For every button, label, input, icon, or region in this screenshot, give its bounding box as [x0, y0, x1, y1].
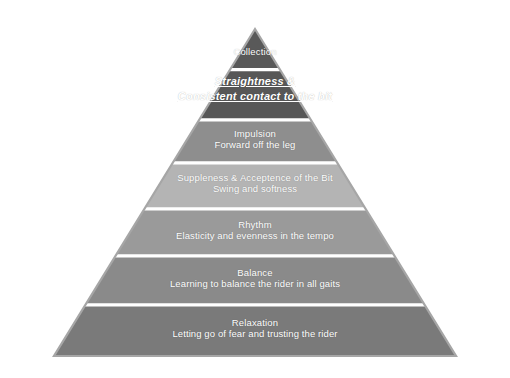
pyramid-diagram: Collection Straightness & Consistent con…: [0, 0, 510, 378]
tier-band-1: [0, 28, 510, 69]
tier-band-6: [0, 257, 510, 304]
tier-band-5: [0, 210, 510, 255]
tier-band-3: [0, 121, 510, 162]
pyramid-tiers: [0, 28, 510, 358]
tier-band-2: [0, 71, 510, 119]
tier-band-7: [0, 306, 510, 358]
pyramid-shape: [0, 0, 510, 378]
tier-band-4: [0, 164, 510, 208]
